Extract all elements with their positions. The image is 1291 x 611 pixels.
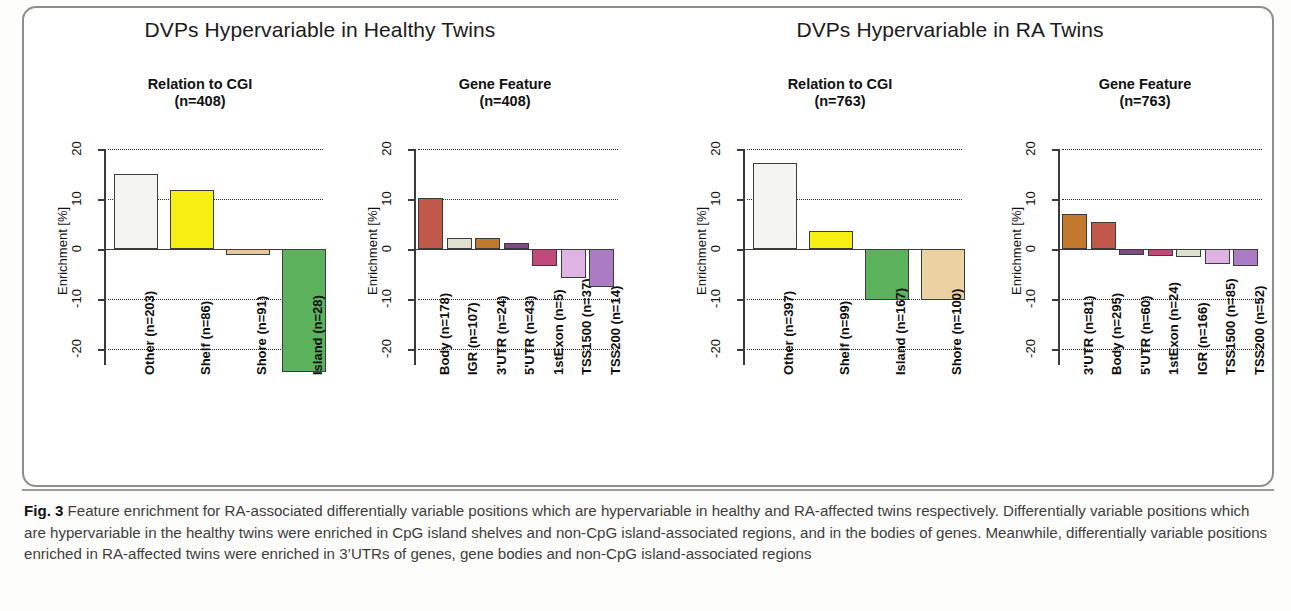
gridline-3-1: [1062, 199, 1262, 200]
y-axis-line-0: [104, 149, 106, 365]
panel-title-2: Relation to CGI(n=763): [735, 76, 945, 110]
panel-title-3: Gene Feature(n=763): [1040, 76, 1250, 110]
bar: [475, 238, 500, 249]
y-tick-label-3-3: -10: [1023, 282, 1038, 316]
gridline-3-0: [1062, 149, 1262, 150]
y-tick-label-3-4: -20: [1023, 332, 1038, 366]
x-category-label: Island (n=28): [310, 295, 325, 375]
y-tick-0-0: [98, 149, 105, 151]
x-category-label: IGR (n=166): [1195, 302, 1210, 375]
figure-root: DVPs Hypervariable in Healthy Twins DVPs…: [0, 0, 1291, 611]
y-tick-2-2: [737, 249, 744, 251]
y-tick-label-3-1: 10: [1023, 182, 1038, 216]
y-axis-line-2: [743, 149, 745, 365]
x-category-label: Shelf (n=86): [198, 301, 213, 375]
y-tick-1-1: [408, 199, 415, 201]
bar: [418, 198, 443, 250]
y-tick-0-2: [98, 249, 105, 251]
y-tick-label-1-1: 10: [379, 182, 394, 216]
y-tick-3-1: [1052, 199, 1059, 201]
x-category-label: 3'UTR (n=24): [494, 296, 509, 375]
y-tick-0-1: [98, 199, 105, 201]
y-tick-label-2-1: 10: [708, 182, 723, 216]
bar: [809, 231, 853, 249]
y-tick-label-3-2: 0: [1023, 232, 1038, 266]
gridline-0-0: [108, 149, 323, 150]
x-category-label: 1stExon (n=5): [551, 289, 566, 375]
x-category-label: 3'UTR (n=81): [1081, 296, 1096, 375]
y-tick-2-0: [737, 149, 744, 151]
x-category-label: Shore (n=100): [949, 289, 964, 375]
y-tick-label-0-2: 0: [69, 232, 84, 266]
bar: [1233, 249, 1258, 266]
bar: [1148, 249, 1173, 256]
y-tick-2-4: [737, 349, 744, 351]
panel-title-1: Gene Feature(n=408): [400, 76, 610, 110]
y-tick-0-4: [98, 349, 105, 351]
y-tick-3-3: [1052, 299, 1059, 301]
bar: [1176, 249, 1201, 257]
bar: [561, 249, 586, 278]
y-tick-label-2-4: -20: [708, 332, 723, 366]
x-category-label: 1stExon (n=24): [1166, 282, 1181, 375]
figure-caption-label: Fig. 3: [24, 502, 63, 519]
figure-caption-text: Feature enrichment for RA-associated dif…: [24, 502, 1267, 562]
figure-caption: Fig. 3 Feature enrichment for RA-associa…: [24, 500, 1272, 565]
x-category-label: TSS1500 (n=37): [579, 279, 594, 375]
bar: [226, 249, 270, 255]
panel-sample-size-2: (n=763): [735, 93, 945, 110]
x-category-label: Body (n=178): [437, 293, 452, 375]
y-tick-2-3: [737, 299, 744, 301]
x-category-label: 5'UTR (n=43): [522, 296, 537, 375]
x-category-label: IGR (n=107): [465, 302, 480, 375]
y-tick-label-0-3: -10: [69, 282, 84, 316]
y-axis-line-1: [414, 149, 416, 365]
y-tick-3-0: [1052, 149, 1059, 151]
bar: [1119, 249, 1144, 255]
y-tick-1-3: [408, 299, 415, 301]
bar: [1091, 222, 1116, 250]
gridline-1-1: [418, 199, 618, 200]
x-category-label: Shelf (n=99): [837, 301, 852, 375]
y-tick-label-2-3: -10: [708, 282, 723, 316]
x-category-label: Shore (n=91): [254, 296, 269, 375]
bar: [1062, 214, 1087, 249]
bar: [532, 249, 557, 266]
y-tick-3-4: [1052, 349, 1059, 351]
panel-sample-size-1: (n=408): [400, 93, 610, 110]
panel-sample-size-0: (n=408): [95, 93, 305, 110]
y-tick-label-2-0: 20: [708, 132, 723, 166]
panel-title-text-3: Gene Feature: [1040, 76, 1250, 93]
panel-title-text-0: Relation to CGI: [95, 76, 305, 93]
y-tick-1-0: [408, 149, 415, 151]
y-tick-label-1-2: 0: [379, 232, 394, 266]
y-tick-label-1-3: -10: [379, 282, 394, 316]
y-tick-3-2: [1052, 249, 1059, 251]
bar: [170, 190, 214, 249]
gridline-2-0: [747, 149, 962, 150]
y-tick-label-0-4: -20: [69, 332, 84, 366]
gridline-1-0: [418, 149, 618, 150]
x-category-label: Other (n=203): [142, 291, 157, 375]
group-title-healthy: DVPs Hypervariable in Healthy Twins: [60, 18, 580, 42]
y-tick-2-1: [737, 199, 744, 201]
x-category-label: Body (n=295): [1109, 293, 1124, 375]
y-tick-1-4: [408, 349, 415, 351]
x-category-label: TSS1500 (n=85): [1223, 279, 1238, 375]
panel-sample-size-3: (n=763): [1040, 93, 1250, 110]
panel-title-text-1: Gene Feature: [400, 76, 610, 93]
y-tick-label-1-0: 20: [379, 132, 394, 166]
y-tick-label-0-1: 10: [69, 182, 84, 216]
y-tick-label-2-2: 0: [708, 232, 723, 266]
y-tick-1-2: [408, 249, 415, 251]
group-title-ra: DVPs Hypervariable in RA Twins: [700, 18, 1200, 42]
bar: [447, 238, 472, 250]
y-tick-label-3-0: 20: [1023, 132, 1038, 166]
bar: [753, 163, 797, 250]
bar: [589, 249, 614, 287]
y-tick-0-3: [98, 299, 105, 301]
bar: [114, 174, 158, 249]
y-tick-label-1-4: -20: [379, 332, 394, 366]
x-category-label: TSS200 (n=52): [1252, 286, 1267, 375]
panel-title-text-2: Relation to CGI: [735, 76, 945, 93]
